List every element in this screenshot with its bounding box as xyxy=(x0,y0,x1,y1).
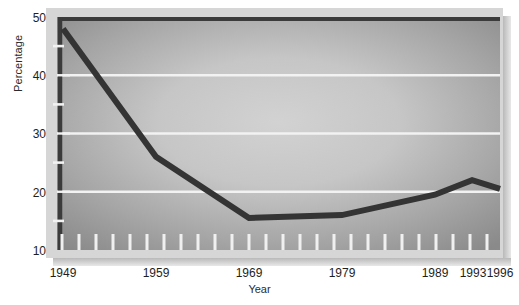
x-tick-label-1996: 1996 xyxy=(479,266,519,280)
chart-canvas xyxy=(0,0,519,305)
x-tick-label-1989: 1989 xyxy=(414,266,456,280)
x-axis-title: Year xyxy=(0,283,519,295)
y-tick-label-10: 10 xyxy=(10,244,46,258)
x-tick-label-1979: 1979 xyxy=(321,266,363,280)
plot-shadow-bottom xyxy=(53,258,511,266)
x-tick-label-1959: 1959 xyxy=(135,266,177,280)
x-tick-label-1949: 1949 xyxy=(42,266,84,280)
y-tick-label-20: 20 xyxy=(10,186,46,200)
y-axis-title: Percentage xyxy=(12,0,24,92)
line-chart: 50 40 30 20 10 Percentage 1949 1959 1969… xyxy=(0,0,519,305)
plot-shadow-right xyxy=(503,16,511,266)
x-tick-label-1969: 1969 xyxy=(228,266,270,280)
y-tick-label-30: 30 xyxy=(10,127,46,141)
